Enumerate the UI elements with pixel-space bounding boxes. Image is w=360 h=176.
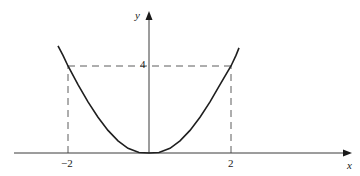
x-tick-label-neg2: −2 (61, 157, 73, 169)
y-axis-label: y (134, 9, 140, 21)
y-axis-arrow-icon (146, 11, 153, 20)
x-axis-label: x (346, 159, 352, 171)
x-axis-arrow-icon (343, 150, 352, 157)
parabola-chart: y x −2 2 4 (0, 0, 360, 176)
axes (14, 11, 352, 157)
y-tick-label-4: 4 (140, 58, 146, 70)
x-tick-label-2: 2 (228, 157, 234, 169)
